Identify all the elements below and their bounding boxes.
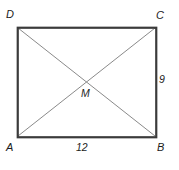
side-length-label-bc: 9 (159, 74, 165, 85)
vertex-label-b: B (157, 142, 164, 153)
vertex-label-c: C (156, 10, 164, 21)
geometry-figure: D C A B M 12 9 (0, 0, 179, 170)
intersection-label-m: M (81, 88, 90, 99)
diagonals-group (18, 28, 155, 136)
vertex-label-d: D (6, 9, 14, 20)
side-length-label-ab: 12 (76, 142, 88, 153)
vertex-label-a: A (6, 142, 13, 153)
rectangle-diagram-svg (0, 0, 179, 170)
